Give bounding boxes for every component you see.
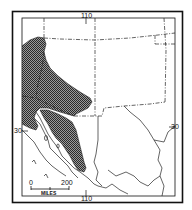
scale-bar: 0 200 MILES — [29, 179, 73, 196]
scale-end-label: 200 — [61, 179, 73, 186]
scale-start-label: 0 — [29, 179, 33, 186]
scale-unit-label: MILES — [41, 190, 57, 196]
latitude-label-left: 30 — [14, 127, 22, 134]
longitude-label-top: 110 — [81, 12, 92, 19]
species-range-area — [22, 37, 92, 172]
longitude-label-bottom: 110 — [81, 195, 92, 202]
latitude-label-right: 30 — [171, 123, 179, 130]
range-map: 110 110 30 30 0 200 MILES — [0, 0, 192, 210]
